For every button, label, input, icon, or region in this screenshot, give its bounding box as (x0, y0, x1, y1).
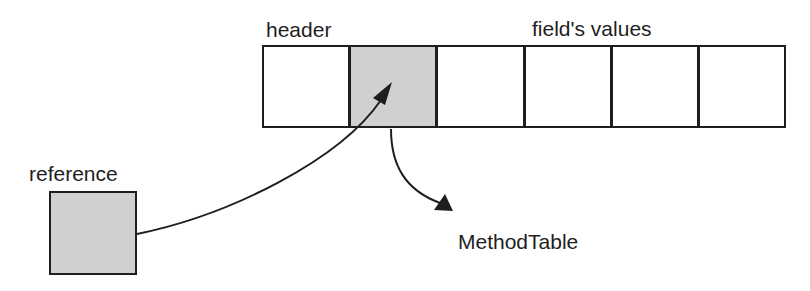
reference-arrow (137, 100, 381, 234)
method-table-arrow (391, 129, 440, 203)
arrows (0, 0, 810, 291)
arrowhead-icon (373, 82, 392, 105)
